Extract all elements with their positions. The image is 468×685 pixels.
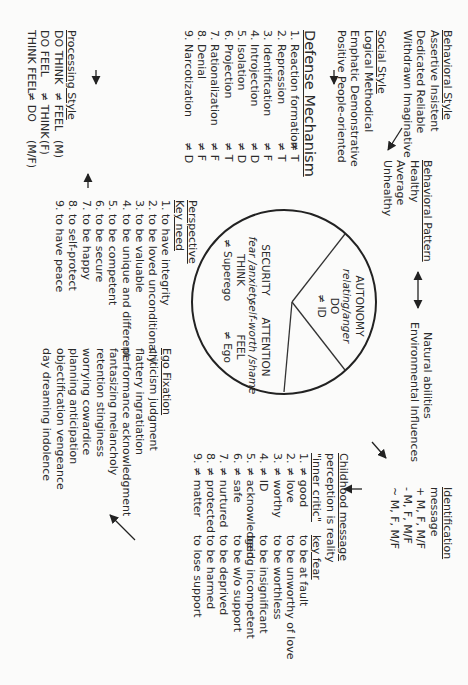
autonomy-neg: ≠ ID: [316, 258, 329, 354]
attention-neg: ≠ Ego: [222, 298, 235, 396]
security-title: SECURITY: [260, 232, 273, 308]
autonomy-mode: DO: [329, 258, 342, 354]
attention-mode: FEEL: [235, 298, 248, 396]
security-neg: ≠ Superego: [222, 232, 235, 308]
arrow-style-to-pattern: [388, 128, 402, 150]
arrow-environment-to-identification: [372, 442, 386, 458]
wedge-security: SECURITY fear /anxiety THINK ≠ Superego: [222, 232, 272, 308]
autonomy-emotion: relating/anger: [341, 258, 354, 354]
autonomy-title: AUTONOMY: [354, 258, 367, 354]
wedge-attention: ATTENTION self-worth /shame FEEL ≠ Ego: [222, 298, 272, 396]
arrow-childhood-to-ego: [110, 515, 135, 540]
attention-emotion: self-worth /shame: [247, 298, 260, 396]
attention-title: ATTENTION: [260, 298, 273, 396]
security-mode: THINK: [235, 232, 248, 308]
wedge-autonomy: AUTONOMY relating/anger DO ≠ ID: [316, 258, 366, 354]
personality-diagram-page: Behavioral Style Assertive Insistent Ded…: [0, 0, 468, 685]
security-emotion: fear /anxiety: [247, 232, 260, 308]
